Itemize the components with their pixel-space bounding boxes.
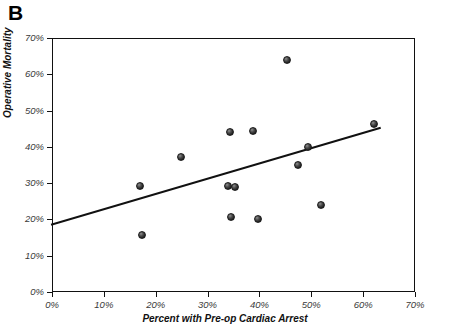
trendline [0, 0, 450, 330]
chart-page: B 0%10%20%30%40%50%60%70% 0%10%20%30%40%… [0, 0, 450, 330]
